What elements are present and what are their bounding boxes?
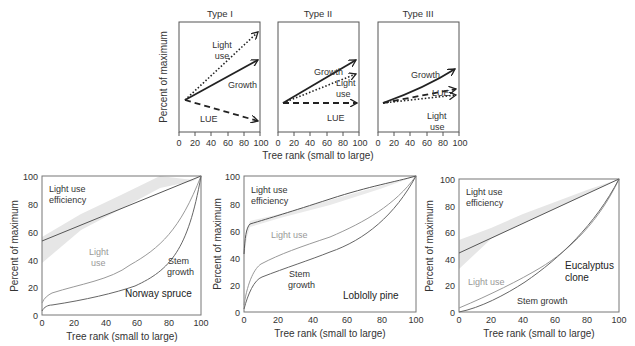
svg-text:20: 20	[445, 281, 455, 291]
svg-text:40: 40	[308, 315, 318, 325]
svg-text:40: 40	[305, 138, 315, 148]
svg-text:0: 0	[275, 138, 280, 148]
svg-text:100: 100	[452, 138, 467, 148]
svg-text:Stem: Stem	[289, 269, 310, 279]
ns-y-axis-label: Percent of maximum	[9, 200, 20, 292]
svg-text:40: 40	[206, 138, 216, 148]
eu-x-ticks: 020406080100	[456, 315, 626, 325]
eucalyptus-clone-panel: Light use efficiency Light use Stem grow…	[459, 179, 619, 312]
svg-text:efficiency: efficiency	[251, 196, 289, 206]
type-i-lue-label: LUE	[200, 114, 218, 124]
svg-text:0: 0	[235, 308, 240, 318]
svg-text:60: 60	[550, 315, 560, 325]
top-x-tick-labels: 020406080100 020406080100 020406080100	[176, 138, 467, 148]
svg-text:20: 20	[190, 138, 200, 148]
svg-text:60: 60	[28, 228, 38, 238]
eu-title-line1: Eucalyptus	[565, 260, 614, 271]
svg-text:Light use: Light use	[468, 277, 505, 287]
svg-text:Light use: Light use	[466, 187, 503, 197]
svg-text:Stem growth: Stem growth	[517, 296, 568, 306]
svg-text:100: 100	[225, 172, 240, 182]
svg-text:Light use: Light use	[271, 230, 308, 240]
svg-text:0: 0	[176, 138, 181, 148]
svg-text:40: 40	[101, 318, 111, 328]
type-ii-panel: Type II Growth Light use LUE	[278, 8, 359, 132]
svg-text:Stem: Stem	[168, 256, 189, 266]
lp-title: Loblolly pine	[343, 290, 399, 301]
type-iii-growth-label: Growth	[411, 70, 440, 80]
ns-y-ticks: 020406080100	[23, 172, 38, 321]
type-ii-light-label: Light	[336, 78, 356, 88]
svg-text:80: 80	[438, 138, 448, 148]
type-i-growth-label: Growth	[228, 80, 257, 90]
ns-x-axis-label: Tree rank (small to large)	[66, 331, 177, 342]
svg-text:40: 40	[445, 255, 455, 265]
type-ii-frame	[278, 22, 359, 132]
lp-x-axis-label: Tree rank (small to large)	[274, 328, 385, 339]
svg-text:40: 40	[230, 254, 240, 264]
lp-y-ticks: 020406080100	[225, 172, 240, 318]
svg-text:80: 80	[338, 138, 348, 148]
svg-text:100: 100	[408, 315, 423, 325]
lp-x-ticks: 020406080100	[241, 315, 423, 325]
svg-text:100: 100	[440, 175, 455, 185]
type-i-frame	[179, 22, 260, 132]
svg-text:growth: growth	[288, 280, 315, 290]
type-ii-lue-label: LUE	[327, 113, 345, 123]
top-x-axis-label: Tree rank (small to large)	[262, 150, 373, 161]
svg-text:60: 60	[132, 318, 142, 328]
svg-text:20: 20	[273, 315, 283, 325]
type-iii-panel: Type III Growth LUE Light use	[378, 8, 459, 132]
svg-text:efficiency: efficiency	[49, 195, 87, 205]
svg-text:20: 20	[69, 318, 79, 328]
svg-text:Light use: Light use	[49, 184, 86, 194]
type-ii-growth-label: Growth	[314, 67, 343, 77]
svg-text:80: 80	[582, 315, 592, 325]
svg-text:0: 0	[375, 138, 380, 148]
svg-text:60: 60	[342, 315, 352, 325]
svg-text:60: 60	[422, 138, 432, 148]
type-i-title: Type I	[207, 8, 233, 19]
ns-title: Norway spruce	[125, 288, 192, 299]
eu-x-axis-label: Tree rank (small to large)	[483, 328, 594, 339]
type-ii-use-label: use	[336, 89, 351, 99]
top-x-axes	[179, 132, 459, 136]
type-i-panel: Type I Light use Growth LUE	[179, 8, 260, 132]
svg-text:0: 0	[33, 311, 38, 321]
svg-text:20: 20	[289, 138, 299, 148]
svg-text:80: 80	[377, 315, 387, 325]
eu-y-axis-label: Percent of maximum	[424, 200, 435, 292]
top-y-axis-label: Percent of maximum	[158, 31, 169, 123]
svg-text:Light use: Light use	[251, 185, 288, 195]
type-iii-title: Type III	[402, 8, 433, 19]
svg-text:80: 80	[445, 202, 455, 212]
svg-text:100: 100	[253, 138, 268, 148]
svg-text:100: 100	[23, 172, 38, 182]
type-iii-use-label: use	[430, 122, 445, 132]
svg-text:0: 0	[450, 308, 455, 318]
svg-text:20: 20	[389, 138, 399, 148]
svg-text:0: 0	[39, 318, 44, 328]
svg-text:40: 40	[518, 315, 528, 325]
svg-text:20: 20	[28, 283, 38, 293]
ns-x-ticks: 020406080100	[39, 318, 208, 328]
svg-text:80: 80	[164, 318, 174, 328]
svg-text:20: 20	[486, 315, 496, 325]
type-ii-title: Type II	[304, 8, 333, 19]
svg-text:0: 0	[456, 315, 461, 325]
svg-text:use: use	[91, 258, 106, 268]
svg-text:Light: Light	[89, 247, 109, 257]
svg-text:100: 100	[611, 315, 626, 325]
svg-text:growth: growth	[167, 267, 194, 277]
svg-text:20: 20	[230, 281, 240, 291]
lp-y-axis-label: Percent of maximum	[212, 198, 223, 290]
eu-y-ticks: 020406080100	[440, 175, 455, 318]
svg-text:60: 60	[223, 138, 233, 148]
type-i-use-label: use	[215, 51, 230, 61]
svg-text:60: 60	[230, 227, 240, 237]
svg-text:100: 100	[193, 318, 208, 328]
svg-text:0: 0	[241, 315, 246, 325]
svg-text:40: 40	[405, 138, 415, 148]
svg-text:efficiency: efficiency	[466, 198, 504, 208]
svg-text:60: 60	[445, 228, 455, 238]
